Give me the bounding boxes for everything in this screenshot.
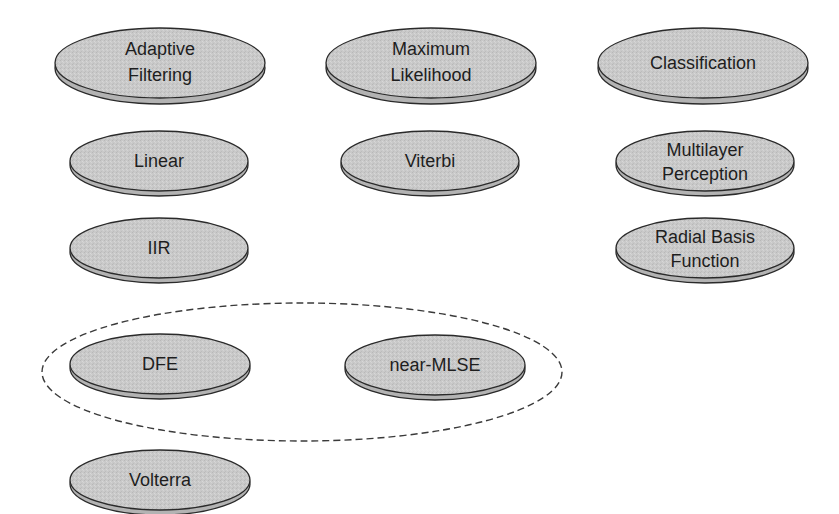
disc-label: Perception: [662, 164, 748, 184]
disc-label: Multilayer: [666, 140, 743, 160]
disc-label: near-MLSE: [389, 355, 480, 375]
disc-label: Volterra: [129, 470, 192, 490]
diagram-canvas: Adaptive Filtering Linear IIR DFE Volter…: [0, 0, 839, 514]
disc-label: Radial Basis: [655, 227, 755, 247]
disc-volterra: Volterra: [70, 450, 250, 514]
disc-label: IIR: [147, 238, 170, 258]
disc-label: Filtering: [128, 65, 192, 85]
disc-classification: Classification: [598, 28, 808, 104]
disc-adaptive-filtering: Adaptive Filtering: [55, 28, 265, 104]
disc-label: Linear: [134, 151, 184, 171]
disc-near-mlse: near-MLSE: [345, 335, 525, 400]
disc-label: Classification: [650, 53, 756, 73]
disc-dfe: DFE: [70, 334, 250, 399]
disc-label: Adaptive: [125, 39, 195, 59]
disc-linear: Linear: [70, 131, 248, 196]
disc-iir: IIR: [70, 218, 248, 283]
disc-viterbi: Viterbi: [341, 131, 519, 196]
disc-label: Maximum: [392, 39, 470, 59]
disc-radial-basis-function: Radial Basis Function: [616, 218, 794, 283]
disc-label: Function: [670, 251, 739, 271]
disc-label: Likelihood: [390, 65, 471, 85]
disc-multilayer-perception: Multilayer Perception: [616, 131, 794, 196]
diagram-svg: Adaptive Filtering Linear IIR DFE Volter…: [0, 0, 839, 514]
disc-maximum-likelihood: Maximum Likelihood: [326, 28, 536, 104]
disc-label: Viterbi: [405, 151, 456, 171]
disc-label: DFE: [142, 354, 178, 374]
